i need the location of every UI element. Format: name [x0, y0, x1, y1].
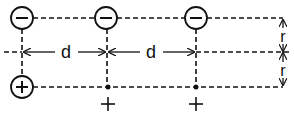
half-gap-label-r-bottom: r: [280, 62, 286, 79]
positive-charge-dot-2: [106, 85, 111, 90]
charge-diagram: d d r r: [0, 0, 294, 122]
spacing-label-d2: d: [146, 42, 156, 62]
spacing-label-d1: d: [61, 42, 71, 62]
positive-charge-dot-3: [194, 85, 199, 90]
half-gap-label-r-top: r: [280, 28, 286, 45]
